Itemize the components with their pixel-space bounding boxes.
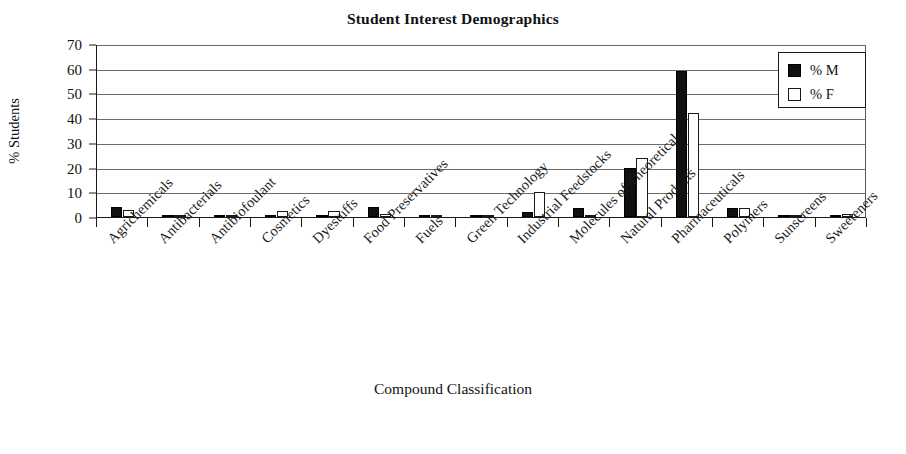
bar-female [534,192,546,217]
y-axis-tick-label: 70 [67,37,82,54]
bar-female [636,158,648,217]
y-axis-tick-mark [89,119,96,120]
legend-swatch-female [788,88,801,101]
bar-male [778,215,790,217]
bar-group [302,45,353,217]
bar-female [688,113,700,217]
y-axis-tick-mark [89,193,96,194]
bar-female [174,215,186,217]
bar-female [123,210,135,217]
bar-male [470,215,482,217]
y-axis-tick-label: 60 [67,61,82,78]
y-axis-tick-group: 010203040506070 [0,45,96,218]
legend-item-m[interactable]: % M [788,58,865,82]
bar-male [573,208,585,217]
y-axis-tick-mark [89,69,96,70]
bar-male [419,215,431,217]
x-axis-tick-mark [609,218,610,227]
bar-male [522,212,534,217]
legend-label-female: % F [810,86,834,103]
x-axis-tick-mark [712,218,713,227]
bar-female [431,215,443,217]
x-axis-tick-mark [455,218,456,227]
x-axis-tick-mark [353,218,354,227]
legend-label-male: % M [810,62,839,79]
bar-female [226,215,238,217]
bar-female [739,208,751,217]
bar-group [559,45,610,217]
x-axis-tick-mark [250,218,251,227]
bar-group [508,45,559,217]
y-axis-tick-mark [89,168,96,169]
legend-item-f[interactable]: % F [788,82,865,106]
bar-group [456,45,507,217]
bar-male [111,207,123,217]
bar-female [585,215,597,217]
bar-male [265,215,277,217]
bar-male [368,207,380,217]
y-axis-tick-mark [89,45,96,46]
x-axis-tick-mark [815,218,816,227]
bar-group [148,45,199,217]
bar-group [405,45,456,217]
x-axis-tick-mark [866,218,867,227]
chart-figure: Student Interest Demographics % Students… [0,0,906,454]
x-axis-tick-mark [763,218,764,227]
legend-swatch-male [788,64,801,77]
chart-title: Student Interest Demographics [0,10,906,28]
y-axis-tick-label: 50 [67,86,82,103]
bar-male [162,215,174,217]
bar-female [380,214,392,217]
bar-female [482,215,494,217]
y-axis-tick-mark [89,143,96,144]
bar-female [277,211,289,217]
bar-male [624,168,636,217]
x-axis-tick-mark [147,218,148,227]
x-axis-tick-mark [301,218,302,227]
x-axis-tick-mark [661,218,662,227]
y-axis-tick-label: 40 [67,111,82,128]
bar-group [200,45,251,217]
chart-legend: % M % F [778,52,866,108]
x-axis-tick-mark [199,218,200,227]
bar-group [97,45,148,217]
bar-female [328,211,340,217]
x-axis-tick-mark [558,218,559,227]
y-axis-tick-label: 20 [67,160,82,177]
plot-area [96,45,866,218]
bar-male [214,215,226,217]
bar-group [251,45,302,217]
y-axis-tick-label: 30 [67,135,82,152]
bar-group [662,45,713,217]
y-axis-tick-label: 0 [75,210,83,227]
bar-group [354,45,405,217]
bar-female [790,215,802,217]
y-axis-tick-label: 10 [67,185,82,202]
x-axis-tick-mark [507,218,508,227]
bar-male [676,71,688,217]
bar-group [610,45,661,217]
bar-female [842,214,854,217]
bar-male [727,208,739,217]
y-axis-tick-mark [89,94,96,95]
bar-group [713,45,764,217]
bar-male [316,215,328,217]
x-axis-title: Compound Classification [0,380,906,398]
x-axis-tick-mark [404,218,405,227]
x-axis-tick-mark [96,218,97,227]
bar-male [830,215,842,217]
y-axis-tick-mark [89,218,96,219]
